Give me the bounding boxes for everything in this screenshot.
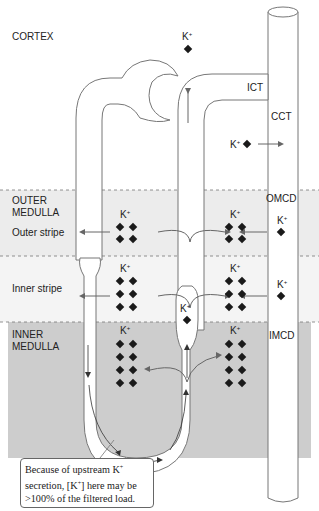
label-outer-medulla-1: OUTER bbox=[12, 195, 47, 206]
svg-text:K+: K+ bbox=[182, 31, 193, 42]
label-ict: ICT bbox=[247, 82, 263, 93]
label-cortex: CORTEX bbox=[12, 31, 54, 42]
label-outer-stripe: Outer stripe bbox=[12, 227, 65, 238]
label-cct: CCT bbox=[271, 111, 292, 122]
label-imcd: IMCD bbox=[269, 330, 295, 341]
label-omcd: OMCD bbox=[266, 193, 297, 204]
label-inner-stripe: Inner stripe bbox=[12, 283, 62, 294]
label-inner-medulla-1: INNER bbox=[12, 329, 43, 340]
callout-note: Because of upstream K+ secretion, [K+] h… bbox=[20, 458, 154, 508]
label-outer-medulla-2: MEDULLA bbox=[12, 207, 60, 218]
potassium-handling-diagram: CORTEX OUTER MEDULLA Outer stripe Inner … bbox=[0, 0, 319, 511]
svg-text:K+: K+ bbox=[230, 139, 241, 150]
label-inner-medulla-2: MEDULLA bbox=[12, 341, 60, 352]
